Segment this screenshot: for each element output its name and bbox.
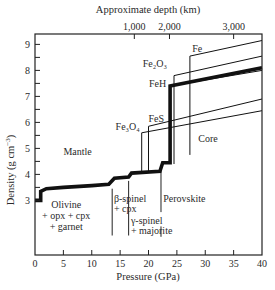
annotation-label: γ-spinel [130,215,163,226]
x-tick-label: 10 [87,258,97,269]
annotation-label: + majorite [131,225,173,236]
top-tick-label: 1,000 [123,21,146,32]
top-axis-ticks: 1,0002,0003,000 [123,21,245,39]
plot-content: FeFe₂O₃FeHFeSFe₃O₄MantleCoreOlivine+ opx… [35,41,262,237]
y-axis-label: Density (g cm−3) [4,134,17,205]
y-axis-ticks: 3456789 [25,39,40,206]
x-tick-label: 30 [200,258,210,269]
annotation-label: Perovskite [163,193,206,204]
x-tick-label: 0 [33,258,38,269]
top-tick-label: 2,000 [158,21,181,32]
annotation-label: Olivine [51,199,82,210]
density-pressure-chart: FeFe₂O₃FeHFeSFe₃O₄MantleCoreOlivine+ opx… [0,0,275,290]
y-tick-label: 4 [25,169,30,180]
annotation-label: FeS [149,113,165,124]
y-tick-label: 5 [25,143,30,154]
annotation-label: + opx + cpx [42,210,90,221]
annotation-label: Core [198,133,218,144]
x-tick-label: 15 [115,258,125,269]
annotation-label: β-spinel [114,193,147,204]
annotation-label: FeH [149,78,166,89]
x-tick-label: 35 [229,258,239,269]
x-axis-ticks: 0510152025303540 [33,250,268,269]
annotation-label: Fe₂O₃ [143,58,167,69]
x-tick-label: 40 [257,258,267,269]
y-tick-label: 7 [25,91,30,102]
y-tick-label: 9 [25,39,30,50]
annotation-label: Mantle [63,146,92,157]
top-tick-label: 3,000 [222,21,245,32]
x-axis-label: Pressure (GPa) [116,271,180,283]
x-tick-label: 25 [172,258,182,269]
annotation-label: Fe₃O₄ [116,121,141,132]
x-tick-label: 20 [144,258,154,269]
x-tick-label: 5 [61,258,66,269]
annotation-label: + garnet [50,221,83,232]
annotation-label: + cpx [114,203,137,214]
y-tick-label: 6 [25,117,30,128]
y-tick-label: 8 [25,65,30,76]
y-tick-label: 3 [25,195,30,206]
top-axis-label: Approximate depth (km) [96,4,201,16]
annotation-label: Fe [192,43,203,54]
